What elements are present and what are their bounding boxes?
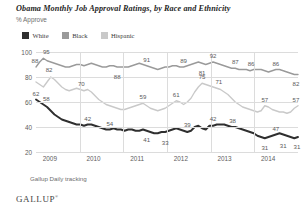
data-point-label: 42 [84, 114, 91, 121]
chart-container: Obama Monthly Job Approval Ratings, by R… [0, 0, 307, 215]
chart-title: Obama Monthly Job Approval Ratings, by R… [16, 4, 230, 13]
plot-area: 2040608010088958288918189928786868270596… [36, 52, 298, 152]
data-point-label: 70 [78, 79, 85, 86]
x-axis: 200920102011201220132014 [36, 152, 298, 166]
legend-label: Hispanic [111, 32, 134, 39]
x-axis-tick-label: 2012 [174, 155, 188, 162]
chart-legend: WhiteBlackHispanic [22, 32, 134, 39]
data-point-label: 31 [280, 141, 287, 148]
data-point-label: 54 [106, 119, 113, 126]
data-point-label: 71 [215, 78, 222, 85]
data-point-label: 33 [162, 139, 169, 146]
data-point-label: 88 [32, 57, 39, 64]
data-point-label: 89 [180, 57, 187, 64]
legend-swatch-icon [62, 32, 69, 39]
gallup-logo: GALLUP® [16, 194, 59, 204]
gridline-x-2011 [123, 52, 124, 152]
data-point-label: 82 [293, 79, 300, 86]
x-axis-tick-label: 2011 [130, 155, 144, 162]
gridline-x-2010 [80, 52, 81, 152]
y-axis-tick-label: 60 [25, 99, 32, 106]
y-axis-tick-label: 40 [25, 124, 32, 131]
y-axis-tick-label: 80 [25, 74, 32, 81]
legend-item-white: White [22, 32, 49, 39]
y-axis-tick-label: 20 [25, 149, 32, 156]
data-point-label: 95 [43, 48, 50, 55]
data-point-label: 86 [272, 59, 279, 66]
x-axis-tick-label: 2010 [86, 155, 100, 162]
data-point-label: 92 [210, 52, 217, 59]
data-point-label: 57 [293, 95, 300, 102]
data-point-label: 86 [248, 59, 255, 66]
gridline-x-2013 [211, 52, 212, 152]
data-point-label: 91 [143, 55, 150, 62]
data-point-label: 41 [143, 135, 150, 142]
data-point-label: 39 [184, 120, 191, 127]
data-point-label: 31 [261, 144, 268, 151]
source-note: Gallup Daily tracking [30, 175, 87, 182]
data-point-label: 82 [46, 65, 53, 72]
data-point-label: 42 [210, 114, 217, 121]
x-axis-tick-label: 2014 [261, 155, 275, 162]
x-axis-tick-label: 2009 [43, 155, 57, 162]
data-point-label: 58 [43, 94, 50, 101]
gridline-x-2012 [167, 52, 168, 152]
data-point-label: 31 [294, 143, 301, 150]
gridline-x-2014 [254, 52, 255, 152]
data-point-label: 61 [173, 90, 180, 97]
brand-text: GALLUP [16, 194, 55, 204]
data-point-label: 87 [232, 58, 239, 65]
y-axis-tick-label: 100 [21, 49, 32, 56]
x-axis-tick-label: 2013 [217, 155, 231, 162]
data-point-label: 62 [33, 89, 40, 96]
data-point-label: 88 [114, 73, 121, 80]
data-point-label: 38 [229, 117, 236, 124]
data-point-label: 75 [199, 73, 206, 80]
legend-item-hispanic: Hispanic [101, 32, 135, 39]
legend-swatch-icon [22, 32, 29, 39]
legend-swatch-icon [101, 32, 108, 39]
data-point-label: 59 [140, 93, 147, 100]
chart-subtitle: % Approve [16, 16, 47, 23]
legend-item-black: Black [62, 32, 88, 39]
data-point-label: 57 [261, 95, 268, 102]
legend-label: Black [72, 32, 87, 39]
legend-label: White [33, 32, 49, 39]
data-point-label: 47 [272, 124, 279, 131]
